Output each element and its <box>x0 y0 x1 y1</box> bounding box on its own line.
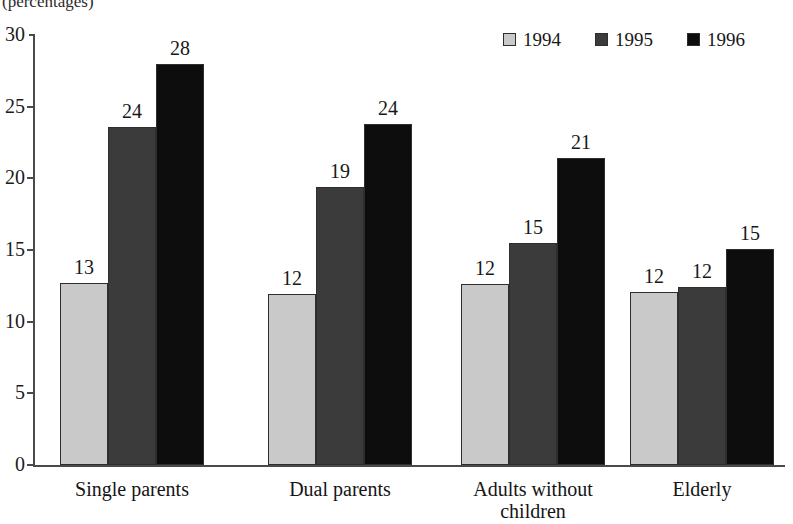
y-axis-label-20: 20 <box>0 167 25 187</box>
category-label-line1: Single parents <box>22 478 242 500</box>
y-axis-tick-5 <box>27 392 35 394</box>
bar-value-label-1994-group0: 13 <box>52 257 116 277</box>
bar-value-label-1996-group0: 28 <box>148 38 212 58</box>
y-axis-tick-30 <box>29 34 35 36</box>
legend-label-1995: 1995 <box>615 30 653 49</box>
legend-item-1996: 1996 <box>687 30 745 49</box>
y-axis-label-5: 5 <box>0 382 25 402</box>
bar-1996-group2 <box>557 158 605 465</box>
y-axis-label-15: 15 <box>0 239 25 259</box>
bar-value-label-1996-group3: 15 <box>718 223 782 243</box>
category-label-line1: Dual parents <box>230 478 450 500</box>
bar-1994-group2 <box>461 284 509 465</box>
y-axis-tick-15 <box>27 249 35 251</box>
y-axis-label-25: 25 <box>0 96 25 116</box>
legend-swatch-1994 <box>503 33 516 46</box>
y-axis-tick-0 <box>27 464 35 466</box>
bar-value-label-1995-group0: 24 <box>100 101 164 121</box>
bar-value-label-1994-group2: 12 <box>453 258 517 278</box>
bar-1994-group3 <box>630 292 678 465</box>
bar-1994-group0 <box>60 283 108 465</box>
y-axis-label-text: 30 <box>1 24 25 44</box>
y-axis-tick-20 <box>27 177 35 179</box>
bar-1996-group0 <box>156 64 204 465</box>
category-label-line1: Elderly <box>592 478 793 500</box>
category-label-0: Single parents <box>22 478 242 500</box>
y-axis-tick-10 <box>27 321 35 323</box>
y-axis-label-text: 15 <box>1 239 25 259</box>
legend-label-1996: 1996 <box>707 30 745 49</box>
bar-1995-group0 <box>108 127 156 465</box>
y-axis-label-text: 5 <box>1 382 25 402</box>
legend-item-1995: 1995 <box>595 30 653 49</box>
bar-1995-group3 <box>678 287 726 465</box>
bar-value-label-1994-group1: 12 <box>260 268 324 288</box>
y-axis-label-text: 20 <box>1 167 25 187</box>
bar-value-label-1995-group3: 12 <box>670 261 734 281</box>
legend-item-1994: 1994 <box>503 30 561 49</box>
y-axis-label-text: 0 <box>1 454 25 474</box>
category-label-line2: children <box>423 500 643 522</box>
y-axis-tick-25 <box>27 106 35 108</box>
category-label-3: Elderly <box>592 478 793 500</box>
legend-swatch-1995 <box>595 33 608 46</box>
bar-1994-group1 <box>268 294 316 465</box>
x-axis-baseline <box>33 465 785 467</box>
category-label-1: Dual parents <box>230 478 450 500</box>
y-axis-label-30: 30 <box>0 24 25 44</box>
y-axis-label-0: 0 <box>0 454 25 474</box>
y-axis-line <box>33 35 35 467</box>
bar-value-label-1995-group1: 19 <box>308 161 372 181</box>
bar-value-label-1996-group2: 21 <box>549 132 613 152</box>
legend-label-1994: 1994 <box>523 30 561 49</box>
y-axis-label-text: 10 <box>1 311 25 331</box>
legend-swatch-1996 <box>687 33 700 46</box>
y-axis-label-10: 10 <box>0 311 25 331</box>
chart-legend: 199419951996 <box>503 30 745 49</box>
bar-value-label-1996-group1: 24 <box>356 98 420 118</box>
bar-value-label-1995-group2: 15 <box>501 217 565 237</box>
bar-chart-plot-area: 051015202530 132428121924121521121215 Si… <box>0 0 793 524</box>
bar-1995-group1 <box>316 187 364 465</box>
y-axis-label-text: 25 <box>1 96 25 116</box>
